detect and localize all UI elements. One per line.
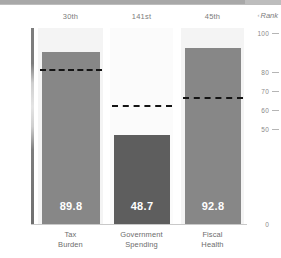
y-tick-label-60: 60	[251, 107, 269, 114]
bar-value-tax-burden: 89.8	[42, 200, 100, 212]
bar-tax-burden[interactable]	[42, 52, 100, 224]
chart-root: 100 80 70 60 50 0 30th 141st 45th ‹Rank …	[0, 0, 281, 258]
reference-line-tax-burden	[40, 69, 102, 71]
rank-label-fiscal-health: 45th	[181, 12, 244, 21]
bar-fiscal-health[interactable]	[185, 48, 241, 224]
category-label-tax-burden-line2: Burden	[36, 240, 105, 250]
y-tick-label-80: 80	[251, 69, 269, 76]
y-tick-mark-50	[272, 129, 279, 130]
top-strip-inner	[0, 0, 245, 4]
bar-value-government-spending: 48.7	[114, 200, 170, 212]
category-label-tax-burden: Tax Burden	[36, 230, 105, 249]
category-label-tax-burden-line1: Tax	[36, 230, 105, 240]
y-tick-mark-70	[272, 91, 279, 92]
category-label-government-spending: Government Spending	[106, 230, 177, 249]
reference-line-government-spending	[112, 105, 172, 107]
category-label-fiscal-health: Fiscal Health	[179, 230, 246, 249]
rank-annotation-text: Rank	[260, 11, 278, 20]
y-tick-label-0: 0	[251, 221, 269, 228]
category-label-government-spending-line2: Spending	[106, 240, 177, 250]
y-tick-mark-60	[272, 110, 279, 111]
rank-label-tax-burden: 30th	[38, 12, 103, 21]
category-label-fiscal-health-line2: Health	[179, 240, 246, 250]
y-tick-label-100: 100	[251, 30, 269, 37]
bar-value-fiscal-health: 92.8	[185, 200, 241, 212]
y-axis-spine	[31, 28, 34, 225]
category-label-fiscal-health-line1: Fiscal	[179, 230, 246, 240]
y-tick-label-50: 50	[251, 126, 269, 133]
category-label-government-spending-line1: Government	[106, 230, 177, 240]
y-tick-mark-100	[272, 33, 279, 34]
top-decorative-strip	[0, 0, 281, 5]
rank-annotation: ‹Rank	[257, 11, 278, 20]
y-tick-label-70: 70	[251, 88, 269, 95]
reference-line-fiscal-health	[183, 97, 243, 99]
x-axis-baseline	[31, 224, 247, 225]
rank-label-government-spending: 141st	[110, 12, 173, 21]
y-tick-mark-80	[272, 72, 279, 73]
